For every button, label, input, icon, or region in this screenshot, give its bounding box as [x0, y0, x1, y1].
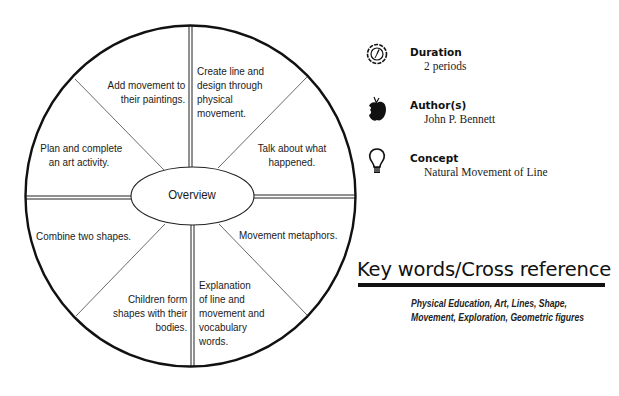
- segment-line: words.: [199, 334, 264, 348]
- segment-bottom-left: Children form shapes with their bodies.: [113, 292, 187, 334]
- segment-line: Create line and: [197, 64, 264, 78]
- segment-line: their paintings.: [107, 92, 185, 106]
- segment-lower-left: Combine two shapes.: [36, 229, 131, 243]
- segment-upper-left: Plan and complete an art activity.: [40, 141, 117, 169]
- segment-line: Plan and complete: [40, 141, 117, 155]
- segment-line: bodies.: [113, 320, 187, 334]
- segment-bottom-right: Explanation of line and movement and voc…: [199, 278, 264, 348]
- duration-title: Duration: [410, 46, 462, 58]
- authors-title: Author(s): [410, 99, 466, 111]
- segment-line: physical: [197, 92, 264, 106]
- segment-line: Talk about what: [258, 141, 327, 155]
- segment-line: happened.: [258, 155, 327, 169]
- center-label-overview: Overview: [155, 187, 229, 202]
- segment-line: Children form: [113, 292, 187, 306]
- clock-badge-icon: [366, 43, 388, 69]
- segment-top-left: Add movement to their paintings.: [107, 78, 185, 106]
- apple-icon: [366, 94, 388, 124]
- segment-line: design through: [197, 78, 264, 92]
- segment-line: vocabulary: [199, 320, 264, 334]
- keywords-heading: Key words/Cross reference: [357, 258, 611, 281]
- segment-line: an art activity.: [40, 155, 117, 169]
- concept-title: Concept: [410, 152, 458, 164]
- authors-value: John P. Bennett: [424, 113, 495, 125]
- segment-line: Add movement to: [107, 78, 185, 92]
- segment-line: Combine two shapes.: [36, 229, 131, 243]
- segment-line: of line and: [199, 292, 264, 306]
- segment-line: Explanation: [199, 278, 264, 292]
- duration-value: 2 periods: [424, 60, 466, 72]
- segment-line: Movement metaphors.: [239, 228, 337, 242]
- segment-line: shapes with their: [113, 306, 187, 320]
- lightbulb-icon: [366, 146, 388, 176]
- keywords-underline: [358, 283, 605, 287]
- segment-top-right: Create line and design through physical …: [197, 64, 264, 120]
- concept-value: Natural Movement of Line: [424, 166, 548, 178]
- segment-lower-right: Movement metaphors.: [239, 228, 337, 242]
- segment-upper-right: Talk about what happened.: [258, 141, 327, 169]
- segment-line: movement.: [197, 106, 264, 120]
- keywords-list: Physical Education, Art, Lines, Shape, M…: [411, 297, 600, 324]
- segment-line: movement and: [199, 306, 264, 320]
